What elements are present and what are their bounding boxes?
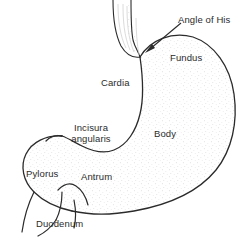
label-duodenum: Duodenum [36, 218, 83, 229]
label-cardia: Cardia [101, 77, 130, 88]
label-incisura-angularis: Incisura angularis [60, 122, 122, 144]
label-antrum: Antrum [81, 171, 112, 182]
label-angle-of-his: Angle of His [178, 14, 230, 25]
stomach-anatomy-figure: Angle of His Fundus Cardia Body Incisura… [0, 0, 252, 240]
stomach-illustration [0, 0, 252, 240]
label-incisura-line-1: Incisura [60, 122, 122, 133]
label-incisura-line-2: angularis [60, 133, 122, 144]
label-fundus: Fundus [170, 52, 202, 63]
label-pylorus: Pylorus [26, 168, 58, 179]
label-body: Body [154, 128, 176, 139]
